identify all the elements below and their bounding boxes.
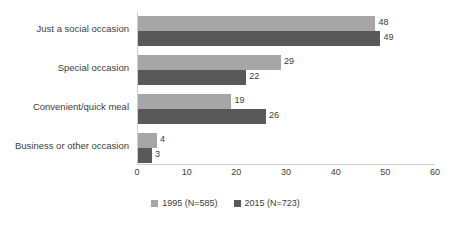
legend-label: 1995 (N=585) [162,198,217,208]
bar-value-label: 29 [281,56,294,66]
bar-value-label: 26 [266,110,279,120]
bar-value-label: 22 [246,71,259,81]
legend-swatch-icon [234,200,241,207]
legend-swatch-icon [151,200,158,207]
category-label: Convenient/quick meal [33,101,129,112]
bar-row: 4 [137,133,435,148]
bar-group: 29 22 [137,55,435,85]
chart-legend: 1995 (N=585) 2015 (N=723) [0,198,451,208]
y-axis-line [137,12,138,164]
x-axis-line [137,164,435,165]
bar-series-2 [137,31,380,46]
bar-value-label: 4 [157,134,165,144]
bar-value-label: 3 [152,149,160,159]
bar-row: 22 [137,70,435,85]
bar-series-2 [137,148,152,163]
bar-row: 26 [137,109,435,124]
bar-series-1 [137,133,157,148]
plot-area: 48 49 29 22 19 [137,12,435,164]
bar-row: 29 [137,55,435,70]
bar-group: 48 49 [137,16,435,46]
bar-series-1 [137,16,375,31]
bar-row: 3 [137,148,435,163]
bar-group: 4 3 [137,133,435,163]
bar-series-2 [137,70,246,85]
x-tick-label: 30 [281,167,291,177]
bar-series-2 [137,109,266,124]
legend-item-2015: 2015 (N=723) [234,198,300,208]
x-tick-label: 60 [430,167,440,177]
bar-value-label: 48 [375,17,388,27]
bar-value-label: 49 [380,32,393,42]
x-tick-label: 0 [134,167,139,177]
bar-row: 48 [137,16,435,31]
bar-chart: Just a social occasion Special occasion … [0,0,451,227]
x-tick-label: 10 [182,167,192,177]
category-axis: Just a social occasion Special occasion … [0,12,133,164]
category-label: Business or other occasion [15,140,129,151]
x-tick-label: 20 [231,167,241,177]
x-tick-label: 50 [380,167,390,177]
legend-item-1995: 1995 (N=585) [151,198,217,208]
category-label: Special occasion [58,62,129,73]
bar-row: 49 [137,31,435,46]
bar-row: 19 [137,94,435,109]
bar-value-label: 19 [231,95,244,105]
bar-series-1 [137,94,231,109]
x-tick-label: 40 [331,167,341,177]
category-label: Just a social occasion [37,23,129,34]
bar-group: 19 26 [137,94,435,124]
x-axis: 0 10 20 30 40 50 60 [137,167,435,181]
bar-series-1 [137,55,281,70]
legend-label: 2015 (N=723) [245,198,300,208]
